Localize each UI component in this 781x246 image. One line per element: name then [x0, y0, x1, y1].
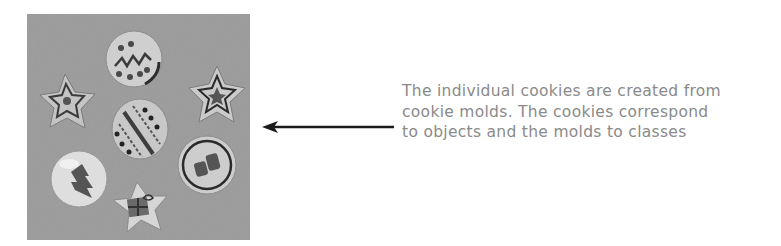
arrow-left-icon	[262, 119, 396, 135]
round-cookie-bottom-left	[51, 151, 107, 207]
caption-line: to objects and the molds to classes	[402, 122, 772, 143]
round-cookie-top	[106, 31, 162, 87]
figure-caption: The individual cookies are created from …	[402, 81, 772, 143]
cookies-photo-icon	[27, 14, 250, 240]
cookies-photo	[27, 14, 250, 240]
caption-line: cookie molds. The cookies correspond	[402, 102, 772, 123]
round-cookie-middle	[112, 99, 168, 159]
caption-line: The individual cookies are created from	[402, 81, 772, 102]
round-cookie-right	[178, 136, 236, 194]
